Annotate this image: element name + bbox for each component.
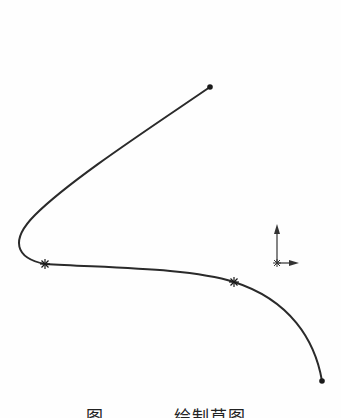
spline-end-point[interactable] <box>319 378 325 384</box>
spline-start-point[interactable] <box>207 84 213 90</box>
spline-through-point-1[interactable] <box>40 259 50 269</box>
spline-through-point-2[interactable] <box>229 277 239 287</box>
figure-caption: 图 绘制草图 <box>0 403 341 418</box>
caption-title: 绘制草图 <box>174 403 246 418</box>
origin-axes-icon <box>273 224 299 267</box>
sketch-canvas <box>0 0 341 418</box>
sketch-figure: 图 绘制草图 <box>0 0 341 418</box>
caption-label: 图 <box>86 403 103 418</box>
